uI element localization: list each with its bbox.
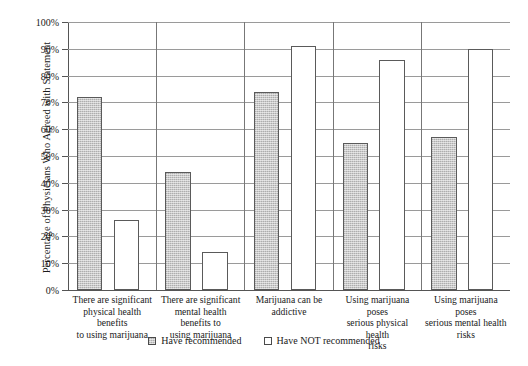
bar-group — [157, 22, 246, 290]
y-axis-tick-label: 20% — [41, 231, 59, 242]
legend-swatch-icon — [264, 337, 272, 345]
bar-group — [245, 22, 334, 290]
bar-have-not-recommended — [291, 46, 316, 290]
y-axis-tick-label: 70% — [41, 97, 59, 108]
x-axis-label-line: addictive — [248, 306, 330, 318]
gridline — [68, 290, 510, 291]
y-axis-tick-label: 60% — [41, 124, 59, 135]
y-axis-tick-label: 10% — [41, 258, 59, 269]
y-axis-tick-label: 40% — [41, 177, 59, 188]
x-axis-label-line: There are significant — [71, 294, 153, 306]
legend-label: Have recommended — [161, 335, 241, 346]
y-axis-tick-label: 0% — [46, 285, 59, 296]
bar-have-not-recommended — [468, 49, 493, 290]
x-axis-label-line: Using marijuana poses — [336, 294, 418, 317]
bar-have-recommended — [254, 92, 279, 290]
x-axis-label-line: There are significant — [159, 294, 241, 306]
legend-swatch-icon — [148, 337, 156, 345]
x-axis-label-line: physical health benefits — [71, 306, 153, 329]
x-axis-label-line: mental health benefits to — [159, 306, 241, 329]
legend-item[interactable]: Have NOT recommended — [264, 335, 380, 346]
x-axis-label-line: Using marijuana poses — [425, 294, 507, 317]
bar-group — [422, 22, 510, 290]
bar-have-recommended — [343, 143, 368, 290]
bar-group — [334, 22, 423, 290]
bar-have-recommended — [431, 137, 456, 290]
legend-label: Have NOT recommended — [277, 335, 380, 346]
bar-have-not-recommended — [114, 220, 139, 290]
bar-have-recommended — [77, 97, 102, 290]
y-axis-tick-label: 30% — [41, 204, 59, 215]
bar-have-not-recommended — [202, 252, 227, 290]
bar-have-recommended — [165, 172, 190, 290]
plot-area: 0%10%20%30%40%50%60%70%80%90%100% — [68, 22, 510, 290]
y-axis-tick-label: 90% — [41, 43, 59, 54]
x-axis-label-line: serious mental health — [425, 317, 507, 329]
y-axis-tick-label: 100% — [36, 17, 59, 28]
x-axis-label-line: Marijuana can be — [248, 294, 330, 306]
chart-legend: Have recommendedHave NOT recommended — [0, 335, 528, 346]
legend-item[interactable]: Have recommended — [148, 335, 241, 346]
bar-group — [68, 22, 157, 290]
y-axis-tick-label: 50% — [41, 151, 59, 162]
bar-groups — [68, 22, 510, 290]
y-axis-tick — [62, 290, 68, 291]
y-axis-tick-label: 80% — [41, 70, 59, 81]
bar-chart: Percentage of Physicians Who Agreed with… — [0, 0, 528, 366]
bar-have-not-recommended — [379, 60, 404, 290]
